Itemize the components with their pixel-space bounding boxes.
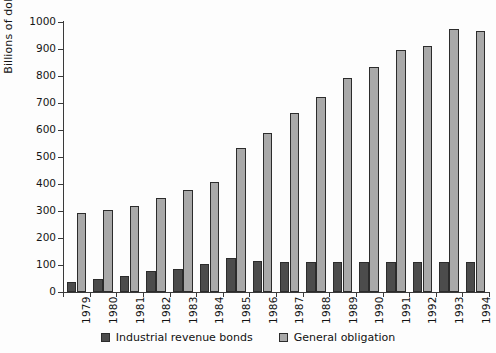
bar-group <box>173 22 193 292</box>
bar <box>396 50 406 292</box>
y-axis-tick-mark <box>58 265 64 266</box>
bar <box>476 31 486 292</box>
bar <box>93 279 103 292</box>
bar <box>130 206 140 292</box>
bar <box>333 262 343 292</box>
x-axis-tick-label: 1983 <box>187 296 199 324</box>
bar <box>306 262 316 292</box>
bar-group <box>67 22 87 292</box>
bar-group <box>333 22 353 292</box>
y-axis-tick-mark <box>58 238 64 239</box>
bar-group <box>306 22 326 292</box>
bar <box>369 67 379 292</box>
x-axis-tick-label: 1985 <box>240 296 252 324</box>
legend-label: General obligation <box>294 331 395 344</box>
bar-group <box>280 22 300 292</box>
x-axis-tick-label: 1986 <box>267 296 279 324</box>
bar-group <box>120 22 140 292</box>
y-axis-tick-label: 600 <box>36 123 56 135</box>
bar <box>226 258 236 292</box>
x-axis-tick-label: 1990 <box>373 296 385 324</box>
y-axis-tick-label: 800 <box>36 69 56 81</box>
y-axis-tick-mark <box>58 22 64 23</box>
bar <box>316 97 326 292</box>
bar-group <box>253 22 273 292</box>
x-axis-tick-label: 1979 <box>80 296 92 324</box>
x-axis-tick-mark <box>63 292 64 297</box>
bar-group <box>466 22 486 292</box>
x-axis-tick-label: 1982 <box>160 296 172 324</box>
y-axis-title: Billions of dollars <box>2 0 20 96</box>
x-axis-tick-label: 1988 <box>320 296 332 324</box>
bar <box>183 190 193 292</box>
chart-legend: Industrial revenue bondsGeneral obligati… <box>0 331 496 344</box>
bar <box>439 262 449 292</box>
x-axis-tick-label: 1991 <box>400 296 412 324</box>
x-axis-tick-label: 1992 <box>426 296 438 324</box>
x-axis-tick-label: 1989 <box>347 296 359 324</box>
y-axis-tick-label: 1000 <box>29 15 56 27</box>
legend-item: General obligation <box>279 331 395 344</box>
y-axis-tick-label: 300 <box>36 204 56 216</box>
y-axis-tick-label: 200 <box>36 231 56 243</box>
bar <box>210 182 220 292</box>
bar <box>120 276 130 292</box>
y-axis-tick-mark <box>58 211 64 212</box>
bar <box>156 198 166 292</box>
bar <box>77 213 87 292</box>
bar-group <box>359 22 379 292</box>
legend-swatch-icon <box>101 333 110 342</box>
bar <box>359 262 369 292</box>
bar <box>413 262 423 292</box>
legend-swatch-icon <box>279 333 288 342</box>
bar <box>236 148 246 292</box>
bar-group <box>439 22 459 292</box>
bar-chart: Billions of dollars 01002003004005006007… <box>0 0 496 353</box>
y-axis-tick-label: 400 <box>36 177 56 189</box>
bar <box>263 133 273 292</box>
bar <box>423 46 433 292</box>
y-axis-tick-mark <box>58 49 64 50</box>
bar <box>67 282 77 292</box>
y-axis-tick-label: 0 <box>49 285 56 297</box>
bar <box>173 269 183 292</box>
bar-group <box>226 22 246 292</box>
x-axis-tick-label: 1981 <box>134 296 146 324</box>
bar-group <box>413 22 433 292</box>
x-axis-tick-label: 1993 <box>453 296 465 324</box>
x-axis-tick-label: 1980 <box>107 296 119 324</box>
x-axis-tick-label: 1984 <box>213 296 225 324</box>
bar-group <box>200 22 220 292</box>
bar-group <box>93 22 113 292</box>
x-axis-tick-label: 1987 <box>293 296 305 324</box>
bar <box>280 262 290 293</box>
plot-area: 01002003004005006007008009001000 <box>63 22 489 292</box>
legend-item: Industrial revenue bonds <box>101 331 253 344</box>
bar-group <box>146 22 166 292</box>
bar <box>200 264 210 292</box>
y-axis-tick-mark <box>58 130 64 131</box>
y-axis-tick-label: 100 <box>36 258 56 270</box>
bar <box>386 262 396 292</box>
bar <box>466 262 476 292</box>
y-axis-title-label: Billions of dollars <box>2 0 15 96</box>
y-axis-tick-label: 700 <box>36 96 56 108</box>
y-axis-tick-label: 900 <box>36 42 56 54</box>
bar <box>343 78 353 292</box>
bar <box>449 29 459 292</box>
y-axis-tick-label: 500 <box>36 150 56 162</box>
bar <box>103 210 113 292</box>
legend-label: Industrial revenue bonds <box>116 331 253 344</box>
y-axis-tick-mark <box>58 103 64 104</box>
x-axis-tick-label: 1994 <box>480 296 492 324</box>
bar <box>290 113 300 292</box>
bar <box>253 261 263 292</box>
bar-group <box>386 22 406 292</box>
y-axis-tick-mark <box>58 76 64 77</box>
y-axis-tick-mark <box>58 157 64 158</box>
y-axis-tick-mark <box>58 184 64 185</box>
bar <box>146 271 156 292</box>
